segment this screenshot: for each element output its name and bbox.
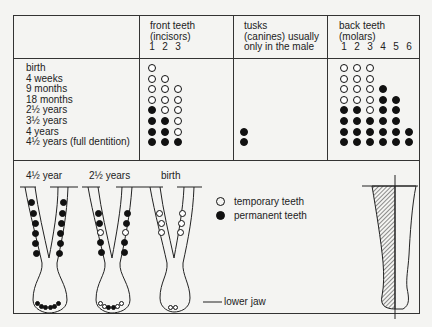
permanent-tooth-icon <box>56 250 63 257</box>
permanent-tooth-icon <box>57 230 64 237</box>
jaw-label-4-5-year: 4½ year <box>26 170 62 181</box>
permanent-tooth-icon <box>58 220 65 227</box>
legend-permanent: permanent teeth <box>216 208 307 222</box>
jaw-4-5-year-shape <box>20 187 78 313</box>
jaw-2-5-years-shape <box>82 187 143 313</box>
permanent-tooth-icon <box>60 199 67 206</box>
legend: temporary teeth permanent teeth <box>216 194 307 222</box>
permanent-tooth-icon <box>28 199 35 206</box>
jaw-diagrams <box>0 0 432 327</box>
permanent-tooth-icon <box>32 220 39 227</box>
side-view-jaw-shape <box>362 175 418 319</box>
jaw-birth-shape <box>143 187 202 312</box>
permanent-tooth-icon <box>59 210 66 217</box>
permanent-tooth-icon <box>43 305 48 310</box>
legend-temporary-label: temporary teeth <box>234 196 304 207</box>
permanent-tooth-icon <box>33 250 40 257</box>
permanent-tooth-icon <box>98 249 105 256</box>
permanent-tooth-icon <box>95 210 102 217</box>
permanent-tooth-icon <box>96 220 103 227</box>
temporary-tooth-icon <box>216 197 225 206</box>
legend-temporary: temporary teeth <box>216 194 307 208</box>
temporary-tooth-icon <box>178 220 185 227</box>
temporary-tooth-icon <box>173 305 178 310</box>
permanent-tooth-icon <box>106 305 111 310</box>
lower-jaw-label: lower jaw <box>224 296 266 307</box>
permanent-tooth-icon <box>56 301 61 306</box>
temporary-tooth-icon <box>158 220 165 227</box>
temporary-tooth-icon <box>156 210 163 217</box>
permanent-tooth-icon <box>216 211 225 220</box>
permanent-tooth-icon <box>121 249 128 256</box>
permanent-tooth-icon <box>32 240 39 247</box>
temporary-tooth-icon <box>122 229 129 236</box>
permanent-tooth-icon <box>97 239 104 246</box>
legend-permanent-label: permanent teeth <box>234 210 307 221</box>
permanent-tooth-icon <box>121 239 128 246</box>
temporary-tooth-icon <box>177 229 184 236</box>
temporary-tooth-icon <box>168 305 173 310</box>
permanent-tooth-icon <box>32 230 39 237</box>
temporary-tooth-icon <box>179 210 186 217</box>
temporary-tooth-icon <box>97 229 104 236</box>
permanent-tooth-icon <box>124 210 131 217</box>
permanent-tooth-icon <box>123 220 130 227</box>
temporary-tooth-icon <box>119 301 124 306</box>
permanent-tooth-icon <box>30 210 37 217</box>
jaw-label-2-5-years: 2½ years <box>89 170 130 181</box>
jaw-label-birth: birth <box>161 170 180 181</box>
temporary-tooth-icon <box>158 229 165 236</box>
permanent-tooth-icon <box>57 240 64 247</box>
